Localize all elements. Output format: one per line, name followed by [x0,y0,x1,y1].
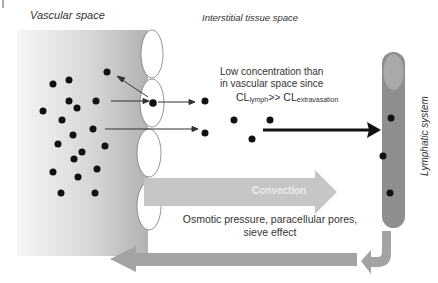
cl-operator: >> CL [268,91,297,103]
vascular-space-label: Vascular space [30,9,105,21]
clearance-relation: CLlymph>> CLextravasation [236,91,338,103]
vascular-space-region [17,30,148,256]
lymphatic-vessel [380,52,406,228]
concentration-note: Low concentration than in vascular space… [220,66,323,90]
interstitial-molecules [202,98,274,143]
endothelial-cell [137,129,161,177]
cl-lymph-subscript: lymph [249,96,268,103]
lymphatic-system-label: Lymphatic system [419,96,430,176]
diagram-canvas [0,0,438,283]
endothelial-cell [141,30,163,78]
mechanisms-line1: Osmotic pressure, paracellular pores, [170,213,370,226]
concentration-note-line2: in vascular space since [220,78,323,90]
concentration-note-line1: Low concentration than [220,66,323,78]
convection-label: Convection [252,185,306,196]
convection-mechanisms: Osmotic pressure, paracellular pores, si… [170,213,370,239]
cl-lymph-symbol: CL [236,91,249,103]
mechanisms-line2: sieve effect [170,226,370,239]
cl-extravasation-subscript: extravasation [297,96,339,103]
convection-arrow [144,170,337,214]
lymph-uptake-arrow [263,122,381,138]
interstitial-space-label: Interstitial tissue space [202,12,298,23]
